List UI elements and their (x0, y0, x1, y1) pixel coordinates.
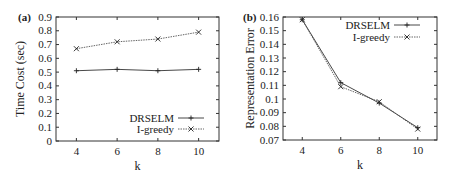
x-tick-label: 8 (377, 144, 383, 156)
x-tick-label: 4 (300, 144, 306, 156)
y-tick-label: 0.1 (38, 121, 52, 133)
x-axis-label: k (357, 158, 363, 172)
y-tick-label: 0.11 (260, 79, 279, 91)
y-tick-label: 0.9 (38, 11, 52, 23)
x-tick-label: 6 (338, 144, 344, 156)
x-tick-label: 6 (114, 145, 120, 157)
y-tick-label: 0.8 (38, 24, 52, 36)
y-tick-label: 0.3 (38, 93, 52, 105)
legend-label: I-greedy (137, 123, 175, 135)
y-tick-label: 0.13 (260, 52, 280, 64)
y-tick-label: 0.12 (260, 65, 279, 77)
y-tick-label: 0.09 (260, 106, 280, 118)
y-tick-label: 0.1 (265, 93, 279, 105)
series-line-drselm (76, 69, 198, 70)
y-tick-label: 0.5 (38, 66, 52, 78)
y-tick-label: 0.16 (260, 11, 280, 23)
y-tick-label: 0.15 (260, 24, 280, 36)
y-tick-label: 0.07 (260, 134, 280, 146)
x-tick-label: 8 (155, 145, 161, 157)
series-line-i-greedy (76, 32, 198, 49)
panel-label: (a) (18, 11, 31, 24)
y-tick-label: 0.2 (38, 107, 52, 119)
x-tick-label: 10 (412, 144, 424, 156)
y-axis-label: Representation Error (243, 28, 257, 128)
y-tick-label: 0.08 (260, 120, 280, 132)
y-tick-label: 0.14 (260, 38, 280, 50)
legend-label: I-greedy (353, 31, 391, 43)
x-tick-label: 10 (193, 145, 205, 157)
y-tick-label: 0 (47, 135, 53, 147)
y-tick-label: 0.7 (38, 38, 52, 50)
panel-label: (b) (243, 11, 257, 24)
x-axis-label: k (135, 159, 141, 172)
chart-panel-b: 0.070.080.090.10.110.120.130.140.150.164… (243, 11, 437, 173)
chart-panel-a: 00.10.20.30.40.50.60.70.80.946810kTime C… (13, 11, 219, 173)
y-tick-label: 0.4 (38, 79, 52, 91)
y-tick-label: 0.6 (38, 52, 52, 64)
figure: 00.10.20.30.40.50.60.70.80.946810kTime C… (0, 0, 454, 172)
legend-label: DRSELM (345, 19, 390, 31)
x-tick-label: 4 (74, 145, 80, 157)
y-axis-label: Time Cost (sec) (13, 41, 27, 117)
